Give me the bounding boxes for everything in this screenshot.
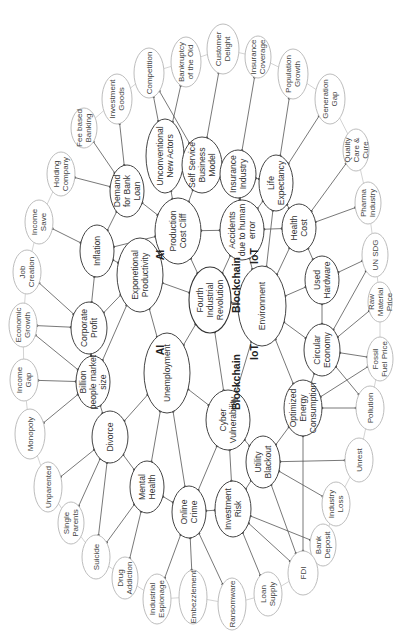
edge-ce-poll <box>335 365 361 396</box>
edge-infl-is <box>51 227 82 244</box>
edge-pcc-accid <box>200 229 222 232</box>
node-label: Economy <box>322 331 332 368</box>
edge-mh-da <box>128 510 142 560</box>
node-label: Utility <box>253 451 263 473</box>
node-label: Espionage <box>157 580 166 618</box>
node-fdi[interactable]: FDI <box>288 551 318 595</box>
node-is[interactable]: IncomeSave <box>25 200 53 244</box>
node-ffp[interactable]: FossilFuel Price <box>367 337 393 381</box>
node-unrest[interactable]: Unrest <box>345 438 373 482</box>
node-label: Risk <box>233 500 243 517</box>
node-label: Revolution <box>215 279 225 320</box>
node-label: Growth <box>23 312 32 338</box>
node-jc[interactable]: JobCreation <box>13 250 41 294</box>
node-label: size <box>98 374 108 390</box>
node-le[interactable]: LifeExpectancy <box>259 155 293 211</box>
edge-cp-infl <box>90 275 95 303</box>
node-label: Divorce <box>105 422 115 451</box>
node-ran[interactable]: Ransomware <box>218 578 246 630</box>
ring-link <box>32 243 34 252</box>
node-ir[interactable]: InvestmentRisk <box>215 481 251 537</box>
edge-mh-div <box>122 453 136 471</box>
node-ins[interactable]: InsuranceIndustry <box>220 150 256 198</box>
tech-label-blockchain: Blockchain <box>230 354 242 410</box>
node-sp[interactable]: SingleParents <box>58 502 84 544</box>
node-oec[interactable]: OptimizedEnergyConsumption <box>284 380 322 436</box>
ring-link <box>363 429 365 439</box>
node-label: Supply <box>268 582 277 606</box>
tech-label-text: AI <box>154 250 166 261</box>
node-uh[interactable]: UsedHardware <box>305 256 339 304</box>
node-poll[interactable]: Pollution <box>356 386 384 430</box>
node-label: Crime <box>189 500 199 523</box>
ring-link <box>371 224 372 234</box>
node-env[interactable]: Environment <box>238 266 286 346</box>
diagram-canvas: FourthIndustrialRevolutionProductionCost… <box>0 0 409 636</box>
node-pi[interactable]: PharmaIndustry <box>355 182 381 224</box>
edge-ir-fdi <box>247 522 291 563</box>
edge-hc-qcc <box>310 162 347 212</box>
node-label: Industrial <box>205 282 215 317</box>
node-emb[interactable]: Embezzlement <box>179 570 207 624</box>
node-oc[interactable]: OnlineCrime <box>172 486 206 538</box>
node-label: Accidents <box>227 211 237 248</box>
ring-link <box>360 170 363 184</box>
ring-link <box>130 84 135 88</box>
node-unp[interactable]: Unparented <box>34 462 62 512</box>
node-cd[interactable]: CustomerDelight <box>207 24 239 74</box>
node-rmp[interactable]: RawMaterialPrice <box>367 282 394 322</box>
node-ingap[interactable]: IncomeGap <box>10 359 38 401</box>
node-label: Fuel Price <box>380 340 389 377</box>
node-ep[interactable]: ExponetionalProductivity <box>117 238 163 312</box>
node-mono[interactable]: Monopoly <box>15 409 45 459</box>
node-pg[interactable]: PopulationGrowth <box>278 49 308 99</box>
node-label: Bankruptcy <box>177 42 186 82</box>
node-hc[interactable]: HealthCost <box>282 204 316 252</box>
edge-oec-ub <box>274 426 290 446</box>
node-ig[interactable]: InvestmentGoods <box>102 74 132 124</box>
node-label: Online <box>179 499 189 524</box>
node-boo[interactable]: Bankruptcyof the Old <box>171 37 201 87</box>
node-qcc[interactable]: QualityCare &Cure <box>343 129 370 171</box>
node-ce[interactable]: CircularEconomy <box>304 324 340 376</box>
node-label: Goods <box>117 87 126 111</box>
node-unsdg[interactable]: UN SDG <box>362 233 388 277</box>
node-ic[interactable]: InsuranceCoverage <box>245 36 271 78</box>
node-label: Expectancy <box>276 160 286 205</box>
tech-label-text: Blockchain <box>230 354 242 410</box>
node-unemp[interactable]: Unemployment <box>144 333 190 413</box>
node-da[interactable]: DrugAddiction <box>112 557 138 599</box>
edge-cv-oc <box>197 445 218 492</box>
node-label: Competition <box>145 52 154 95</box>
node-bpms[interactable]: Billionpeople marketsize <box>76 354 110 409</box>
node-unc[interactable]: UnconventionalNew Actors <box>146 119 184 193</box>
node-ub[interactable]: UtilityBlackout <box>246 436 280 488</box>
node-infl[interactable]: Inflation <box>80 225 114 277</box>
node-ie[interactable]: IndustrialEspionage <box>143 574 171 624</box>
node-eg[interactable]: EconomicGrowth <box>9 303 37 347</box>
ring-link <box>345 477 350 487</box>
edge-env-oec <box>274 338 295 385</box>
node-gg[interactable]: GenerationGap <box>315 74 345 124</box>
node-cp[interactable]: CorporateProfit <box>71 302 107 354</box>
node-ls[interactable]: LoanSupply <box>254 572 282 616</box>
edge-dbl-fbb <box>92 140 116 174</box>
node-label: Care & <box>352 137 361 163</box>
edge-ssbm-cd <box>206 72 220 139</box>
node-label: Insurance <box>228 155 238 193</box>
node-hcomp[interactable]: HoldingCompany <box>47 152 75 196</box>
node-sui[interactable]: Suicide <box>82 535 110 579</box>
node-label: Generation <box>321 79 330 119</box>
node-cv[interactable]: CyberVulnerability <box>206 390 250 450</box>
node-fir[interactable]: FourthIndustrialRevolution <box>189 267 231 333</box>
edge-cp-jc <box>38 282 75 316</box>
node-label: Parents <box>71 509 80 537</box>
node-il[interactable]: IndustryLoss <box>322 482 350 526</box>
node-comp[interactable]: Competition <box>134 48 164 98</box>
node-label: Inflation <box>92 236 102 266</box>
node-div[interactable]: Divorce <box>92 411 128 463</box>
node-dbl[interactable]: Demandfor BankLoan <box>110 165 144 217</box>
node-fbb[interactable]: Fee basedBanking <box>71 108 97 148</box>
node-mh[interactable]: MentalHealth <box>130 461 164 513</box>
node-ssbm[interactable]: Self ServiceBusinessModel <box>182 137 222 193</box>
